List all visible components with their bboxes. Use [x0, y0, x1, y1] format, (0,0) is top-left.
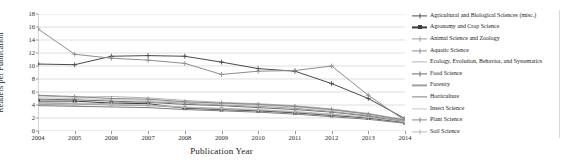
legend-item[interactable]: Food Science — [412, 68, 555, 80]
legend-item-label: Soil Science — [430, 129, 460, 135]
x-axis-tick-label: 2006 — [105, 135, 118, 142]
x-axis-tick-mark — [148, 131, 149, 134]
y-axis-title: Readers per Publication — [0, 14, 8, 131]
legend-item-label: Agricultural and Biological Sciences (mi… — [430, 13, 536, 19]
x-axis-tick-mark — [75, 131, 76, 134]
legend-item[interactable]: Plant Science — [412, 114, 555, 126]
y-axis-tick-label: 4 — [32, 102, 35, 109]
legend-item[interactable]: Ecology, Evolution, Behavior, and System… — [412, 56, 555, 68]
y-axis-tick-mark — [36, 66, 39, 67]
x-axis-tick-label: 2012 — [325, 135, 338, 142]
y-axis-tick-mark — [36, 105, 39, 106]
y-axis-tick-label: 12 — [28, 50, 35, 57]
legend-item-label: Animal Science and Zoology — [430, 36, 500, 42]
x-axis-tick-label: 2014 — [398, 135, 411, 142]
legend-item-label: Aquatic Science — [430, 48, 469, 54]
legend-swatch-icon — [412, 92, 427, 101]
x-axis-tick-mark — [258, 131, 259, 134]
y-axis-tick-mark — [36, 53, 39, 54]
y-axis-tick-mark — [36, 79, 39, 80]
y-axis-tick-mark — [36, 92, 39, 93]
legend-swatch-icon — [412, 127, 427, 136]
legend-swatch-icon — [412, 116, 427, 125]
x-axis-tick-label: 2011 — [288, 135, 301, 142]
x-axis-tick-mark — [222, 131, 223, 134]
legend-item-label: Horticulture — [430, 94, 459, 100]
x-axis-tick-mark — [295, 131, 296, 134]
legend-swatch-icon — [412, 58, 427, 67]
legend-swatch-icon — [412, 104, 427, 113]
legend-item[interactable]: Horticulture — [412, 91, 555, 103]
x-axis-tick-label: 2007 — [142, 135, 155, 142]
legend-item[interactable]: Animal Science and Zoology — [412, 33, 555, 45]
x-axis-tick-mark — [405, 131, 406, 134]
legend-swatch-icon — [412, 69, 427, 78]
y-axis-tick-mark — [36, 14, 39, 15]
legend-item[interactable]: Insect Science — [412, 103, 555, 115]
y-axis-tick-label: 6 — [32, 89, 35, 96]
legend-item-label: Insect Science — [430, 106, 464, 112]
x-axis-tick-mark — [332, 131, 333, 134]
x-axis-tick-label: 2008 — [178, 135, 191, 142]
x-axis-tick-mark — [368, 131, 369, 134]
legend-item[interactable]: Aquatic Science — [412, 45, 555, 57]
legend-item-label: Agronomy and Crop Science — [430, 24, 499, 30]
legend-item[interactable]: Agronomy and Crop Science — [412, 22, 555, 34]
y-axis-tick-label: 18 — [28, 11, 35, 18]
legend-item[interactable]: Forestry — [412, 80, 555, 92]
y-axis-tick-mark — [36, 40, 39, 41]
x-axis-tick-label: 2013 — [362, 135, 375, 142]
legend-item[interactable]: Agricultural and Biological Sciences (mi… — [412, 10, 555, 22]
y-axis-tick-mark — [36, 118, 39, 119]
y-axis-tick-label: 2 — [32, 115, 35, 122]
y-axis-tick-label: 16 — [28, 24, 35, 31]
x-axis-title: Publication Year — [38, 146, 405, 156]
chart-figure: Readers per Publication 0246810121416182… — [0, 0, 569, 163]
legend-item-label: Food Science — [430, 71, 462, 77]
x-axis-tick-label: 2009 — [215, 135, 228, 142]
legend-swatch-icon — [412, 34, 427, 43]
legend-swatch-icon — [412, 46, 427, 55]
legend-swatch-icon — [412, 11, 427, 20]
y-axis-tick-label: 14 — [28, 37, 35, 44]
series-lines — [38, 14, 405, 131]
x-axis-tick-mark — [111, 131, 112, 134]
x-axis-tick-mark — [185, 131, 186, 134]
x-axis-tick-label: 2010 — [252, 135, 265, 142]
plot-area: 0246810121416182004200520062007200820092… — [38, 14, 405, 131]
legend-swatch-icon — [412, 23, 427, 32]
legend-item[interactable]: Soil Science — [412, 126, 555, 138]
legend: Agricultural and Biological Sciences (mi… — [412, 10, 560, 138]
y-axis-tick-label: 8 — [32, 76, 35, 83]
legend-item-label: Plant Science — [430, 117, 462, 123]
legend-item-label: Ecology, Evolution, Behavior, and System… — [430, 59, 542, 65]
x-axis-tick-label: 2004 — [31, 135, 44, 142]
x-axis-tick-label: 2005 — [68, 135, 81, 142]
legend-item-label: Forestry — [430, 82, 450, 88]
legend-swatch-icon — [412, 81, 427, 90]
y-axis-tick-mark — [36, 27, 39, 28]
x-axis-tick-mark — [38, 131, 39, 134]
y-axis-tick-label: 10 — [28, 63, 35, 70]
